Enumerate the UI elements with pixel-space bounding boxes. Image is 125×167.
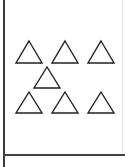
triangle-row1-3: [88, 41, 114, 63]
triangle-row1-2: [52, 41, 78, 63]
triangle-row3-3: [88, 92, 114, 113]
triangle-row2-1: [34, 67, 60, 88]
triangle-group: [0, 0, 125, 167]
triangle-row3-1: [16, 92, 42, 113]
triangle-row3-2: [52, 92, 78, 113]
triangle-row1-1: [16, 41, 42, 63]
